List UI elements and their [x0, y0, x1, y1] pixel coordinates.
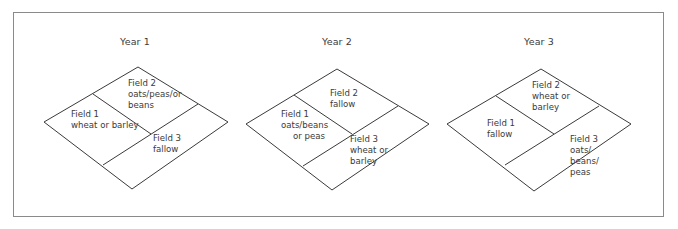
year-2-field-2-label: Field 2 fallow	[330, 88, 358, 110]
field-crop: oats/peas/or	[128, 89, 181, 100]
field-crop: fallow	[153, 144, 181, 155]
field-name: Field 1	[487, 118, 515, 129]
field-name: Field 2	[128, 78, 181, 89]
field-crop: or peas	[281, 131, 328, 142]
field-name: Field 2	[532, 80, 570, 91]
field-crop: oats/beans	[281, 120, 328, 131]
year-1-field-3-label: Field 3 fallow	[153, 133, 181, 155]
field-name: Field 3	[570, 134, 599, 145]
field-crop: wheat or	[350, 145, 388, 156]
field-name: Field 3	[153, 133, 181, 144]
field-name: Field 3	[350, 134, 388, 145]
year-3-title: Year 3	[524, 36, 554, 47]
field-crop: barley	[532, 102, 570, 113]
field-crop: beans/	[570, 156, 599, 167]
field-crop: wheat or barley	[71, 120, 139, 131]
field-name: Field 1	[281, 109, 328, 120]
year-3-field-2-label: Field 2 wheat or barley	[532, 80, 570, 113]
field-name: Field 2	[330, 88, 358, 99]
field-crop: peas	[570, 167, 599, 178]
field-crop: beans	[128, 100, 181, 111]
year-2-field-1-label: Field 1 oats/beans or peas	[281, 109, 328, 142]
year-2-field-3-label: Field 3 wheat or barley	[350, 134, 388, 167]
field-crop: fallow	[330, 99, 358, 110]
field-crop: wheat or	[532, 91, 570, 102]
year-2-title: Year 2	[322, 36, 352, 47]
year-1-field-2-label: Field 2 oats/peas/or beans	[128, 78, 181, 111]
field-crop: oats/	[570, 145, 599, 156]
year-3-field-1-label: Field 1 fallow	[487, 118, 515, 140]
year-1-field-1-label: Field 1 wheat or barley	[71, 109, 139, 131]
year-3-field-3-label: Field 3 oats/ beans/ peas	[570, 134, 599, 178]
field-crop: fallow	[487, 129, 515, 140]
year-1-title: Year 1	[120, 36, 150, 47]
field-crop: barley	[350, 156, 388, 167]
